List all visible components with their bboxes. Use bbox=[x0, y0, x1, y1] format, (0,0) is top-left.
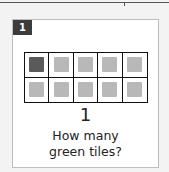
empty-tile bbox=[127, 82, 142, 97]
empty-tile bbox=[102, 57, 117, 72]
tile-count: 1 bbox=[13, 105, 158, 125]
empty-tile bbox=[78, 82, 93, 97]
empty-tile bbox=[127, 57, 142, 72]
grid-cell bbox=[49, 78, 73, 103]
ten-frame-grid bbox=[24, 52, 148, 103]
grid-cell bbox=[123, 78, 147, 103]
question-number-badge: 1 bbox=[13, 20, 32, 35]
grid-cell bbox=[25, 53, 49, 78]
top-tick-mark bbox=[124, 3, 125, 6]
grid-cell bbox=[25, 78, 49, 103]
grid-cell bbox=[74, 78, 98, 103]
grid-cell bbox=[98, 78, 122, 103]
filled-tile bbox=[29, 57, 44, 72]
empty-tile bbox=[29, 82, 44, 97]
top-divider bbox=[0, 2, 169, 3]
empty-tile bbox=[78, 57, 93, 72]
question-line-2: green tiles? bbox=[13, 144, 158, 160]
empty-tile bbox=[54, 57, 69, 72]
question-text: How many green tiles? bbox=[13, 128, 158, 160]
grid-cell bbox=[98, 53, 122, 78]
grid-cell bbox=[74, 53, 98, 78]
question-line-1: How many bbox=[13, 128, 158, 144]
empty-tile bbox=[102, 82, 117, 97]
grid-cell bbox=[123, 53, 147, 78]
question-card: 1 1 How many green tiles? bbox=[12, 19, 159, 168]
grid-cell bbox=[49, 53, 73, 78]
empty-tile bbox=[54, 82, 69, 97]
